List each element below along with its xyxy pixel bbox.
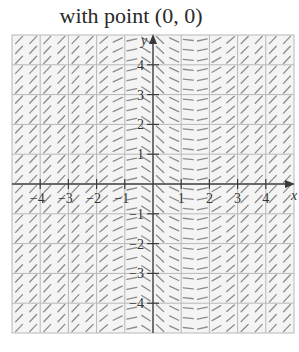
y-tick-label: 3 (137, 88, 144, 103)
x-tick-label: 4 (262, 191, 269, 206)
x-tick-label: −3 (58, 191, 73, 206)
slope-field-plot: −4−3−2−11234−4−3−2−11234xy (0, 0, 299, 352)
x-tick-label: 3 (234, 191, 241, 206)
y-tick-label: 4 (137, 58, 144, 73)
x-tick-label: 1 (178, 191, 185, 206)
x-tick-label: 2 (206, 191, 213, 206)
y-tick-label: 1 (137, 147, 144, 162)
y-tick-label: −2 (129, 237, 144, 252)
x-tick-label: −2 (86, 191, 101, 206)
y-tick-label: 2 (137, 117, 144, 132)
y-axis-label: y (139, 33, 148, 48)
y-tick-label: −1 (129, 207, 144, 222)
x-tick-label: −4 (30, 191, 45, 206)
y-tick-label: −4 (129, 296, 144, 311)
y-tick-label: −3 (129, 266, 144, 281)
x-axis-label: x (290, 188, 298, 203)
x-tick-label: −1 (114, 191, 129, 206)
